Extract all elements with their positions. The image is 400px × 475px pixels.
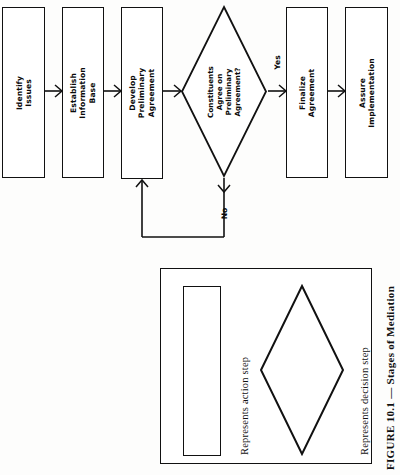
legend-panel: Represents action step Represents decisi… (160, 268, 372, 464)
flow-node-assure-implementation[interactable]: AssureImplementation (345, 7, 388, 178)
legend-action-swatch (183, 286, 221, 456)
flow-node-constituents-agree[interactable]: ConstituentsAgree onPreliminaryAgreement… (180, 5, 268, 178)
flow-node-establish-info-base[interactable]: EstablishInformationBase (62, 7, 104, 178)
legend-action-label: Represents action step (239, 357, 250, 455)
flow-node-label: ConstituentsAgree onPreliminaryAgreement… (206, 66, 242, 118)
flow-node-label: FinalizeAgreement (298, 68, 317, 116)
flow-node-label: IdentifyIssues (14, 75, 33, 109)
flow-node-label: EstablishInformationBase (69, 67, 97, 119)
legend-decision-label: Represents decision step (359, 347, 370, 455)
figure-caption: FIGURE 10.1 — Stages of Mediation (384, 286, 396, 470)
edge-label-yes: Yes (273, 50, 282, 76)
flow-node-develop-prelim-agmt[interactable]: DevelopPreliminaryAgreement (121, 7, 163, 179)
legend-decision-swatch (259, 284, 345, 456)
flow-node-finalize-agreement[interactable]: FinalizeAgreement (286, 7, 328, 178)
figure-page: IdentifyIssues EstablishInformationBase … (0, 0, 400, 475)
flow-node-identify-issues[interactable]: IdentifyIssues (2, 7, 45, 178)
flow-node-label: DevelopPreliminaryAgreement (128, 68, 156, 119)
edge-label-no: No (220, 201, 229, 227)
flow-node-label: AssureImplementation (357, 58, 376, 127)
